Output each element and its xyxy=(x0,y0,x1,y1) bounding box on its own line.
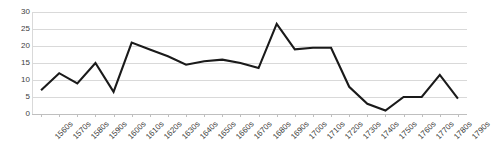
data-series-line xyxy=(32,12,467,114)
x-tick-mark-1690s xyxy=(277,114,278,117)
x-tick-mark-1750s xyxy=(385,114,386,117)
y-tick-label-30: 30 xyxy=(4,8,30,16)
x-tick-mark-1700s xyxy=(295,114,296,117)
x-tick-label-1580s: 1580s xyxy=(89,119,111,141)
x-tick-mark-1610s xyxy=(132,114,133,117)
x-tick-label-1740s: 1740s xyxy=(379,119,401,141)
y-axis-tick-labels: 051015202530 xyxy=(0,12,30,114)
x-tick-label-1640s: 1640s xyxy=(198,119,220,141)
x-tick-label-1670s: 1670s xyxy=(252,119,274,141)
plot-area xyxy=(32,12,467,114)
x-tick-mark-1570s xyxy=(59,114,60,117)
x-tick-mark-1640s xyxy=(186,114,187,117)
x-tick-label-1720s: 1720s xyxy=(343,119,365,141)
x-tick-mark-1790s xyxy=(458,114,459,117)
x-tick-mark-1780s xyxy=(440,114,441,117)
x-tick-mark-1770s xyxy=(422,114,423,117)
x-tick-label-1630s: 1630s xyxy=(180,119,202,141)
y-tick-label-10: 10 xyxy=(4,76,30,84)
x-tick-label-1650s: 1650s xyxy=(216,119,238,141)
x-tick-label-1570s: 1570s xyxy=(71,119,93,141)
x-tick-mark-1650s xyxy=(204,114,205,117)
x-tick-mark-1680s xyxy=(259,114,260,117)
y-tick-label-5: 5 xyxy=(4,93,30,101)
y-tick-label-15: 15 xyxy=(4,59,30,67)
x-tick-label-1600s: 1600s xyxy=(126,119,148,141)
x-tick-label-1690s: 1690s xyxy=(289,119,311,141)
x-tick-mark-1710s xyxy=(313,114,314,117)
x-tick-label-1760s: 1760s xyxy=(416,119,438,141)
x-tick-label-1750s: 1750s xyxy=(397,119,419,141)
y-tick-label-0: 0 xyxy=(4,110,30,118)
x-tick-label-1660s: 1660s xyxy=(234,119,256,141)
x-tick-label-1560s: 1560s xyxy=(53,119,75,141)
x-tick-mark-1590s xyxy=(95,114,96,117)
x-tick-label-1700s: 1700s xyxy=(307,119,329,141)
y-tick-label-25: 25 xyxy=(4,25,30,33)
x-tick-mark-1580s xyxy=(77,114,78,117)
x-tick-label-1620s: 1620s xyxy=(162,119,184,141)
x-tick-label-1610s: 1610s xyxy=(144,119,166,141)
x-tick-label-1590s: 1590s xyxy=(107,119,129,141)
x-tick-label-1770s: 1770s xyxy=(434,119,456,141)
x-tick-mark-1560s xyxy=(41,114,42,117)
x-axis-tick-labels: 1560s1570s1580s1590s1600s1610s1620s1630s… xyxy=(32,118,467,162)
x-tick-mark-1630s xyxy=(168,114,169,117)
x-tick-label-1710s: 1710s xyxy=(325,119,347,141)
x-tick-label-1680s: 1680s xyxy=(271,119,293,141)
x-tick-mark-1730s xyxy=(349,114,350,117)
x-tick-mark-1670s xyxy=(240,114,241,117)
x-tick-mark-1660s xyxy=(222,114,223,117)
x-tick-label-1730s: 1730s xyxy=(361,119,383,141)
x-tick-label-1780s: 1780s xyxy=(452,119,474,141)
x-tick-mark-1720s xyxy=(331,114,332,117)
x-tick-label-1790s: 1790s xyxy=(470,119,492,141)
x-tick-mark-1740s xyxy=(367,114,368,117)
y-tick-label-20: 20 xyxy=(4,42,30,50)
x-tick-mark-1600s xyxy=(114,114,115,117)
x-tick-mark-1760s xyxy=(404,114,405,117)
x-tick-mark-1620s xyxy=(150,114,151,117)
